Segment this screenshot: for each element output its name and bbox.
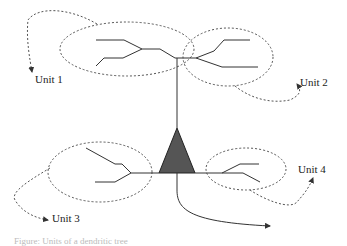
unit3-label: Unit 3 — [52, 212, 80, 224]
unit2-region — [175, 28, 300, 101]
unit4-region — [195, 148, 313, 205]
unit2-label: Unit 2 — [300, 76, 328, 88]
unit3-region — [14, 142, 159, 220]
figure-caption: Figure: Units of a dendritic tree — [14, 236, 128, 246]
soma — [159, 128, 195, 173]
unit1-label: Unit 1 — [35, 73, 63, 85]
axon — [177, 173, 270, 226]
unit4-label: Unit 4 — [298, 163, 326, 175]
unit1-region — [10, 11, 195, 76]
